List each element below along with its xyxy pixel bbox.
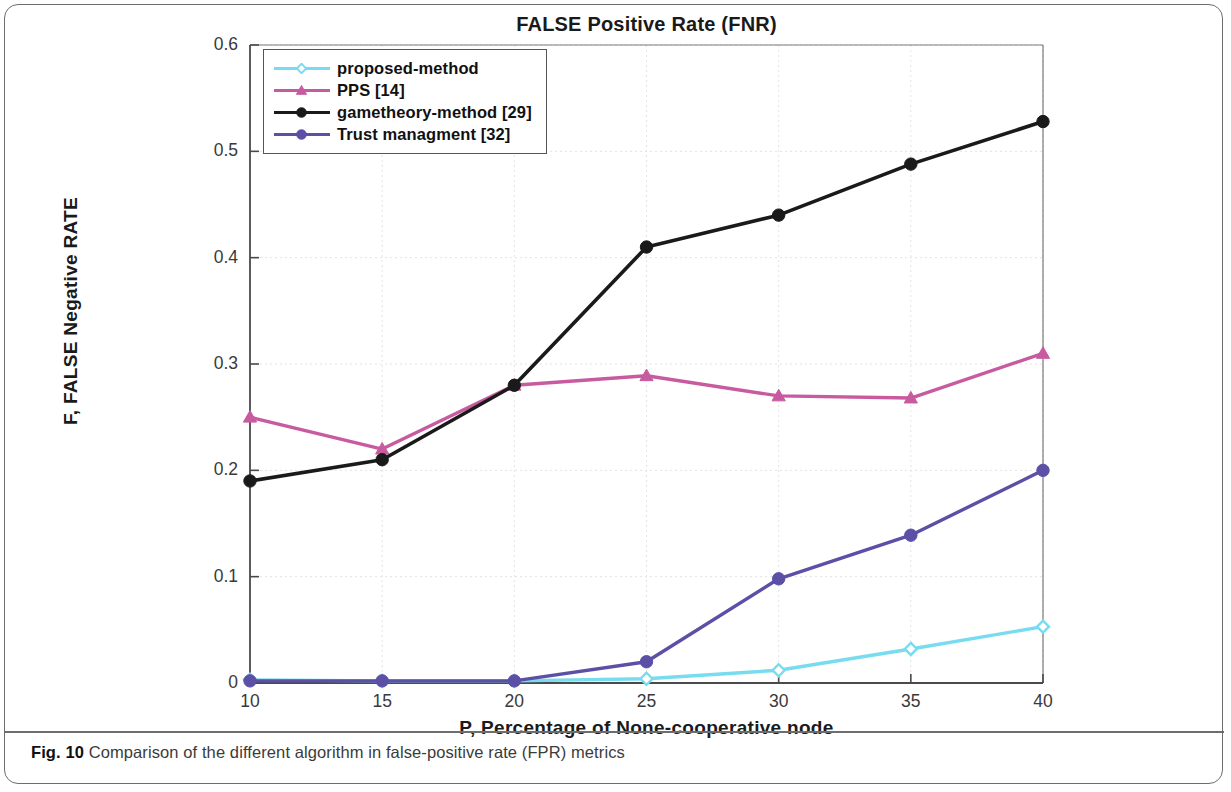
- y-tick-label: 0.5: [182, 140, 238, 161]
- legend-item[interactable]: PPS [14]: [274, 79, 532, 101]
- x-axis-label: P, Percentage of None-cooperative node: [250, 717, 1043, 739]
- x-tick-label: 25: [617, 691, 677, 712]
- data-point-marker: [1037, 464, 1049, 476]
- legend-marker-icon: [296, 107, 307, 118]
- legend-item-label: proposed-method: [337, 59, 479, 78]
- data-point-marker: [905, 643, 917, 655]
- y-tick-label: 0.3: [182, 353, 238, 374]
- x-tick-label: 10: [220, 691, 280, 712]
- data-point-marker: [244, 675, 256, 687]
- legend-swatch-icon: [274, 104, 330, 120]
- data-point-marker: [508, 675, 520, 687]
- caption-divider: [5, 731, 1224, 733]
- data-point-marker: [297, 64, 306, 73]
- data-point-marker: [773, 664, 785, 676]
- data-point-marker: [244, 475, 256, 487]
- data-point-marker: [772, 573, 784, 585]
- data-point-marker: [296, 85, 306, 94]
- x-tick-label: 20: [484, 691, 544, 712]
- legend-swatch-icon: [274, 82, 330, 98]
- data-point-marker: [1037, 115, 1049, 127]
- y-tick-label: 0: [182, 672, 238, 693]
- legend-marker-icon: [296, 85, 307, 96]
- data-point-marker: [297, 108, 307, 118]
- data-point-marker: [243, 411, 256, 423]
- legend-item[interactable]: Trust managment [32]: [274, 123, 532, 145]
- legend-swatch-icon: [274, 60, 330, 76]
- figure-caption-text: Comparison of the different algorithm in…: [89, 743, 625, 761]
- figure-frame: FALSE Positive Rate (FNR) F, FALSE Negat…: [4, 4, 1223, 784]
- x-tick-label: 30: [749, 691, 809, 712]
- data-point-marker: [508, 379, 520, 391]
- legend-marker-icon: [296, 129, 307, 140]
- figure-caption-number: Fig. 10: [31, 743, 84, 761]
- legend-item-label: gametheory-method [29]: [337, 103, 532, 122]
- x-tick-label: 35: [881, 691, 941, 712]
- chart-legend: proposed-methodPPS [14]gametheory-method…: [263, 49, 547, 154]
- data-point-marker: [905, 529, 917, 541]
- figure-caption: Fig. 10 Comparison of the different algo…: [31, 743, 1181, 762]
- data-point-marker: [376, 454, 388, 466]
- data-point-marker: [376, 675, 388, 687]
- data-point-marker: [905, 158, 917, 170]
- data-point-marker: [640, 241, 652, 253]
- data-point-marker: [640, 656, 652, 668]
- y-axis-label: F, FALSE Negative RATE: [60, 31, 82, 591]
- data-point-marker: [297, 130, 307, 140]
- data-point-marker: [1036, 347, 1049, 359]
- legend-item[interactable]: gametheory-method [29]: [274, 101, 532, 123]
- x-tick-label: 15: [352, 691, 412, 712]
- y-tick-label: 0.6: [182, 34, 238, 55]
- y-tick-label: 0.2: [182, 459, 238, 480]
- chart-title: FALSE Positive Rate (FNR): [250, 13, 1043, 36]
- data-point-marker: [772, 209, 784, 221]
- legend-item-label: Trust managment [32]: [337, 125, 510, 144]
- legend-item-label: PPS [14]: [337, 81, 405, 100]
- y-tick-label: 0.1: [182, 566, 238, 587]
- chart-area: FALSE Positive Rate (FNR) F, FALSE Negat…: [5, 5, 1224, 731]
- legend-item[interactable]: proposed-method: [274, 57, 532, 79]
- x-tick-label: 40: [1013, 691, 1073, 712]
- y-tick-label: 0.4: [182, 247, 238, 268]
- data-point-marker: [1037, 621, 1049, 633]
- legend-swatch-icon: [274, 126, 330, 142]
- legend-marker-icon: [296, 63, 307, 74]
